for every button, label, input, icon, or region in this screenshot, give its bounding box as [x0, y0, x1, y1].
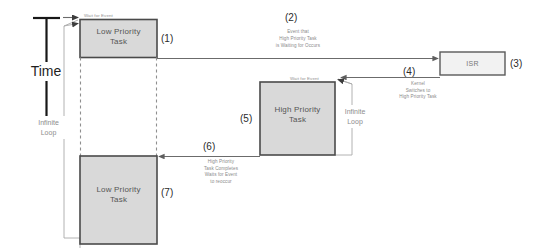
step-number-1: (1) [161, 33, 173, 44]
low-priority-task-bottom-line2: Task [110, 195, 128, 204]
infinite-loop-low-priority-path: Infinite Loop [32, 20, 80, 248]
task-completes-text-line3: Waits for Event [205, 172, 238, 177]
step-number-3: (3) [510, 58, 522, 69]
wait-for-event-label-high: Wait for Event [290, 76, 319, 81]
kernel-switch-text-line1: Kernel [411, 81, 425, 86]
isr-label-text: ISR [466, 60, 479, 67]
low-priority-task-top-line1: Low Priority [96, 27, 140, 36]
high-priority-task-line2: Task [289, 115, 307, 124]
low-priority-task-top-line2: Task [110, 37, 128, 46]
time-axis: Time [18, 18, 75, 128]
low-priority-task-bottom-line1: Low Priority [96, 185, 140, 194]
high-priority-task-box: High Priority Task (5) [240, 82, 335, 155]
diagram-canvas: Time Infinite Loop Wait for Event Low Pr… [0, 0, 538, 249]
low-priority-task-bottom-box: Low Priority Task (7) [80, 156, 173, 244]
infinite-loop-low-line1: Infinite [38, 119, 59, 126]
wait-for-event-label-low: Wait for Event [84, 13, 113, 18]
kernel-switch-text-line3: High Priority Task [399, 94, 437, 99]
step-number-6: (6) [203, 141, 215, 152]
infinite-loop-high-line2: Loop [347, 118, 363, 126]
infinite-loop-high-priority-path: Infinite Loop [335, 79, 373, 155]
task-completes-text-line1: High Priority [208, 159, 235, 164]
high-priority-task-line1: High Priority [274, 105, 320, 114]
preempted-dashed-lines [81, 58, 157, 157]
step-number-7: (7) [161, 187, 173, 198]
kernel-switch-flow: (4) Kernel Switches to High Priority Tas… [341, 66, 440, 99]
time-axis-label: Time [31, 63, 62, 79]
step-number-5: (5) [240, 113, 252, 124]
infinite-loop-low-line2: Loop [41, 129, 57, 137]
event-occurs-text-line1: Event that [287, 29, 309, 34]
event-occurs-text-line3: is Waiting for Occurs [276, 43, 321, 48]
infinite-loop-high-line1: Infinite [345, 108, 366, 115]
step-number-2: (2) [285, 12, 297, 23]
high-priority-loop-arrowhead [338, 80, 352, 85]
isr-box: ISR (3) [440, 52, 522, 75]
task-completes-text-line4: to reoccur [210, 179, 232, 184]
low-priority-task-top-box: Low Priority Task (1) [80, 20, 173, 58]
step-number-4: (4) [403, 66, 415, 77]
event-occurs-text-line2: High Priority Task [279, 36, 317, 41]
low-priority-loop-line [64, 20, 80, 248]
event-occurs-flow: (2) Event that High Priority Task is Wai… [157, 12, 438, 59]
task-completes-flow: (6) High Priority Task Completes Waits f… [159, 141, 260, 184]
kernel-switch-text-line2: Switches to [406, 88, 431, 93]
rtos-task-switching-diagram: Time Infinite Loop Wait for Event Low Pr… [0, 0, 538, 249]
task-completes-text-line2: Task Completes [204, 166, 239, 171]
